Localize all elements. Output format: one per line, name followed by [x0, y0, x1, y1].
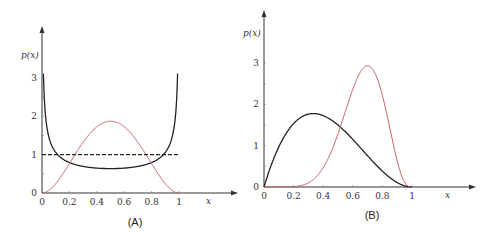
- x-tick-label: 1: [409, 191, 415, 201]
- x-tick-label: 1: [176, 197, 182, 207]
- y-tick-label: 0: [31, 188, 37, 198]
- x-tick-label: 0.2: [62, 197, 76, 207]
- y-tick-label: 3: [253, 58, 259, 68]
- x-axis-label: x: [206, 196, 211, 206]
- x-tick-label: 0.6: [346, 191, 361, 201]
- y-tick-label: 0: [253, 182, 259, 192]
- panel-label: (B): [365, 209, 380, 221]
- figure: 00.20.40.60.810123p(x)x(A)00.20.40.60.81…: [0, 0, 497, 238]
- x-tick-label: 0: [39, 197, 45, 207]
- x-tick-label: 0.4: [316, 191, 331, 201]
- y-tick-label: 1: [31, 150, 37, 160]
- y-axis-arrow-icon: [262, 10, 267, 17]
- x-axis-label: x: [445, 190, 450, 200]
- y-axis-arrow-icon: [40, 26, 45, 33]
- series-line: [42, 121, 179, 193]
- y-axis-label: p(x): [243, 28, 261, 38]
- x-tick-label: 0: [261, 191, 267, 201]
- y-tick-label: 2: [31, 111, 37, 121]
- series-line: [264, 114, 412, 187]
- x-axis-arrow-icon: [231, 191, 238, 196]
- x-tick-label: 0.8: [144, 197, 159, 207]
- y-tick-label: 1: [253, 141, 259, 151]
- x-tick-label: 0.8: [375, 191, 390, 201]
- x-tick-label: 0.2: [286, 191, 300, 201]
- x-tick-label: 0.4: [90, 197, 105, 207]
- y-tick-label: 2: [253, 99, 259, 109]
- y-axis-label: p(x): [21, 50, 39, 60]
- y-tick-label: 3: [31, 73, 37, 83]
- x-axis-arrow-icon: [469, 185, 476, 190]
- panel-b: 00.20.40.60.810123p(x)x(B): [243, 10, 476, 221]
- x-tick-label: 0.6: [117, 197, 132, 207]
- series-line: [264, 66, 412, 187]
- chart-a: 00.20.40.60.810123p(x)x(A)00.20.40.60.81…: [0, 0, 497, 238]
- panel-label: (A): [128, 216, 143, 228]
- panel-a: 00.20.40.60.810123p(x)x(A): [21, 26, 238, 228]
